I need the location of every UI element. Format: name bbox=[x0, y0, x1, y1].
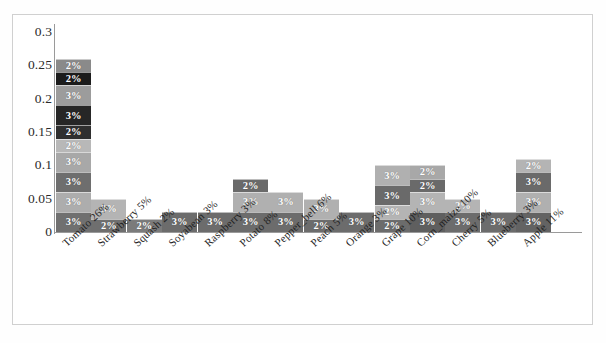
chart-container: 0.30.250.20.150.10.050 3%3%3%3%2%2%3%3%2… bbox=[0, 0, 606, 343]
x-axis-label-11: Corn_maize 10% bbox=[414, 186, 480, 249]
x-axis-category-labels: Tomato 26%Strawberry 5%Squash 2%Soyabean… bbox=[0, 0, 606, 343]
